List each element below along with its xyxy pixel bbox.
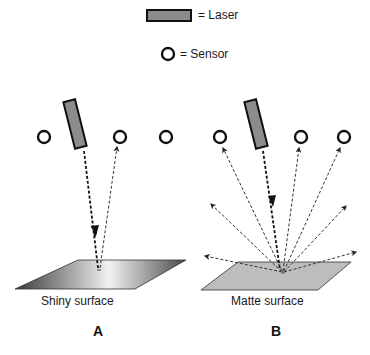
laser-a <box>63 99 86 148</box>
surface-label-b: Matte surface <box>231 294 304 308</box>
sensor-b-middle <box>295 131 307 143</box>
panel-letter-b: B <box>271 323 281 339</box>
legend-laser-symbol <box>147 10 191 21</box>
surface-label-a: Shiny surface <box>41 294 114 308</box>
sensor-a-left <box>38 131 50 143</box>
laser-b <box>244 99 267 148</box>
legend-laser-label: = Laser <box>198 8 238 22</box>
shiny-surface <box>15 260 186 289</box>
incident-ray-b <box>263 151 280 270</box>
sensor-b-right <box>338 131 350 143</box>
sensor-a-middle <box>114 131 126 143</box>
panel-b <box>201 99 356 290</box>
sensor-b-left <box>214 131 226 143</box>
matte-surface <box>201 262 351 290</box>
legend-sensor-symbol <box>162 48 174 60</box>
legend-sensor-label: = Sensor <box>180 47 228 61</box>
panel-letter-a: A <box>93 323 103 339</box>
incident-ray-a <box>84 151 98 268</box>
sensor-a-right <box>160 131 172 143</box>
scattered-rays <box>205 148 356 272</box>
panel-a <box>15 99 186 289</box>
reflected-ray-a <box>100 147 117 268</box>
